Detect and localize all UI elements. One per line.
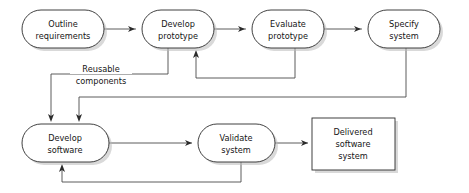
node-label-line-3: system: [338, 151, 368, 161]
edge-label-line-2: components: [76, 76, 127, 86]
edge-develop-software-to-validate-system: [109, 140, 192, 146]
prototyping-process-diagram: Outline requirements Develop prototype E…: [0, 0, 469, 193]
node-label-line-2: system: [221, 145, 251, 155]
node-label-line-2: prototype: [268, 31, 308, 41]
node-label-line-1: Specify: [389, 19, 419, 29]
node-shape-stadium: [142, 10, 214, 48]
edge-label-line-1: Reusable: [82, 64, 119, 74]
edge-label-reusable-components: Reusable components: [68, 63, 136, 87]
node-label-line-2: system: [389, 31, 419, 41]
node-label-line-2: requirements: [36, 31, 91, 41]
edge-evaluate-to-specify-system: [324, 26, 362, 32]
edge-outline-to-develop-prototype: [104, 26, 136, 32]
node-outline-requirements[interactable]: Outline requirements: [22, 10, 107, 51]
edge-evaluate-to-develop-prototype-feedback: [193, 48, 295, 78]
node-shape-stadium: [252, 10, 324, 48]
node-shape-stadium: [198, 124, 275, 162]
node-layer: Outline requirements Develop prototype E…: [22, 10, 443, 173]
node-label-line-1: Develop: [48, 133, 82, 143]
node-shape-stadium: [22, 124, 109, 162]
node-label-line-1: Evaluate: [270, 19, 306, 29]
node-validate-system[interactable]: Validate system: [198, 124, 278, 165]
node-shape-stadium: [368, 10, 440, 48]
edge-line: [196, 48, 295, 78]
diagram-canvas: Outline requirements Develop prototype E…: [0, 0, 469, 193]
node-develop-software[interactable]: Develop software: [22, 124, 112, 165]
node-label-line-1: Validate: [220, 133, 253, 143]
node-label-line-1: Outline: [48, 19, 78, 29]
edge-develop-prototype-to-evaluate: [214, 26, 246, 32]
node-develop-prototype[interactable]: Develop prototype: [142, 10, 217, 51]
node-shape-stadium: [22, 10, 104, 48]
node-label-line-1: Develop: [161, 19, 195, 29]
node-specify-system[interactable]: Specify system: [368, 10, 443, 51]
node-label-line-2: software: [335, 139, 370, 149]
edge-validate-system-to-delivered-software: [275, 140, 308, 146]
node-label-line-2: prototype: [158, 31, 198, 41]
node-evaluate-prototype[interactable]: Evaluate prototype: [252, 10, 327, 51]
node-label-line-2: software: [47, 145, 82, 155]
node-delivered-software-system[interactable]: Delivered software system: [312, 118, 398, 173]
node-label-line-1: Delivered: [333, 127, 372, 137]
